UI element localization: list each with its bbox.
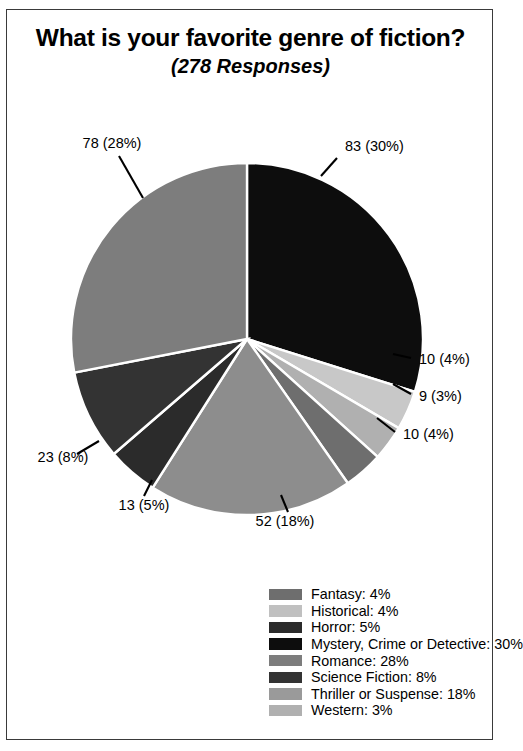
- legend-color-swatch: [269, 605, 302, 617]
- legend-item-label: Thriller or Suspense: 18%: [311, 687, 476, 701]
- page-title: What is your favorite genre of fiction?: [7, 24, 494, 51]
- legend-item: Historical: 4%: [269, 603, 494, 620]
- legend-color-swatch: [269, 672, 302, 684]
- legend-color-swatch: [269, 705, 302, 717]
- slice-value-label: 10 (4%): [419, 351, 470, 367]
- pie-chart-area: 83 (30%)10 (4%)9 (3%)10 (4%)52 (18%)13 (…: [7, 106, 494, 561]
- slice-value-label: 52 (18%): [256, 513, 315, 529]
- slice-value-label: 10 (4%): [403, 426, 454, 442]
- chart-legend: Fantasy: 4%Historical: 4%Horror: 5%Myste…: [269, 586, 494, 719]
- legend-item: Science Fiction: 8%: [269, 669, 494, 686]
- legend-color-swatch: [269, 638, 302, 650]
- legend-item-label: Historical: 4%: [311, 604, 398, 618]
- slice-value-label: 23 (8%): [38, 449, 89, 465]
- slice-value-label: 9 (3%): [419, 388, 462, 404]
- slice-value-label: 78 (28%): [83, 135, 142, 151]
- legend-item-label: Western: 3%: [311, 703, 393, 717]
- legend-color-swatch: [269, 655, 302, 667]
- slice-value-label: 83 (30%): [345, 138, 404, 154]
- title-block: What is your favorite genre of fiction? …: [7, 24, 494, 78]
- leader-line: [119, 156, 143, 198]
- pie-chart-svg: 83 (30%)10 (4%)9 (3%)10 (4%)52 (18%)13 (…: [7, 106, 494, 561]
- chart-card: What is your favorite genre of fiction? …: [6, 9, 493, 740]
- legend-item-label: Horror: 5%: [311, 620, 380, 634]
- legend-color-swatch: [269, 688, 302, 700]
- legend-item: Romance: 28%: [269, 652, 494, 669]
- legend-item-label: Science Fiction: 8%: [311, 670, 437, 684]
- slice-value-label: 13 (5%): [119, 497, 170, 513]
- leader-line: [321, 158, 337, 176]
- legend-item-label: Romance: 28%: [311, 654, 409, 668]
- pie-slice: [71, 163, 247, 373]
- legend-item-label: Fantasy: 4%: [311, 587, 390, 601]
- legend-item: Fantasy: 4%: [269, 586, 494, 603]
- legend-item: Thriller or Suspense: 18%: [269, 686, 494, 703]
- legend-item-label: Mystery, Crime or Detective: 30%: [311, 637, 523, 651]
- legend-color-swatch: [269, 622, 302, 634]
- chart-subtitle: (278 Responses): [7, 54, 494, 78]
- legend-item: Mystery, Crime or Detective: 30%: [269, 636, 494, 653]
- legend-color-swatch: [269, 589, 302, 601]
- legend-item: Horror: 5%: [269, 619, 494, 636]
- pie-slices: [71, 163, 423, 515]
- legend-item: Western: 3%: [269, 702, 494, 719]
